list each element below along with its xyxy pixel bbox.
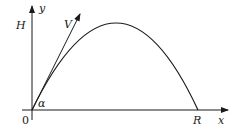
max-height-label: H bbox=[15, 19, 26, 32]
trajectory-curve bbox=[32, 23, 198, 110]
angle-label: α bbox=[38, 97, 46, 110]
velocity-label: V bbox=[64, 18, 73, 31]
range-label: R bbox=[192, 114, 201, 127]
origin-label: 0 bbox=[22, 114, 29, 127]
x-axis-label: x bbox=[218, 114, 225, 127]
y-axis-label: y bbox=[38, 2, 46, 15]
trajectory-diagram: y H V α 0 R x bbox=[0, 0, 236, 131]
velocity-vector bbox=[32, 14, 80, 110]
